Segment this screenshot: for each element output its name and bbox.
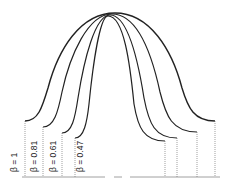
curve-beta-1: [25, 13, 215, 121]
curve-beta-0.61: [62, 15, 177, 138]
label-beta-1: β = 1: [9, 152, 19, 172]
diagram-canvas: β = 1 β = 0.81 β = 0.61 β = 0.47: [0, 0, 229, 191]
label-beta-0.61: β = 0.61: [48, 141, 58, 172]
label-beta-0.81: β = 0.81: [29, 141, 39, 172]
curve-beta-0.81: [43, 14, 197, 132]
label-beta-0.47: β = 0.47: [75, 141, 85, 172]
